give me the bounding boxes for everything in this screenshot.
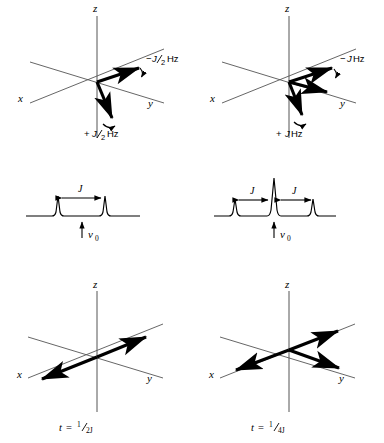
annotation-denominator-downfield: 2 (101, 133, 105, 142)
axis-label-x: x (17, 92, 23, 104)
caption-numerator: 1 (269, 420, 273, 429)
annotation-denominator-upfield: 2 (161, 58, 165, 67)
annotation-unit-upfield: Hz (167, 53, 179, 64)
annotation-j-upfield: J (346, 53, 352, 64)
axis-label-x: x (16, 368, 22, 380)
nmr-vector-figure: z x y − J 2 Hz + J 2 Hz z x y (0, 0, 384, 443)
caption-denominator: 2J (86, 426, 93, 435)
axis-label-y: y (339, 97, 345, 109)
caption-denominator: 4J (278, 426, 285, 435)
annotation-plus-sign: + (84, 128, 90, 139)
axis-label-z: z (92, 278, 98, 290)
annotation-unit-upfield: Hz (353, 53, 365, 64)
axis-label-z: z (284, 278, 290, 290)
axis-label-y: y (146, 372, 152, 384)
annotation-minus-j-hz: − J Hz (340, 53, 365, 64)
nu-subscript: 0 (287, 234, 291, 243)
caption-numerator: 1 (77, 420, 81, 429)
background (0, 0, 384, 443)
caption-equals: = (258, 422, 264, 433)
nu-subscript: 0 (95, 234, 99, 243)
axis-label-x: x (209, 92, 215, 104)
annotation-minus-sign: − (340, 53, 346, 64)
axis-label-y: y (147, 97, 153, 109)
coupling-label-j-left: J (250, 185, 255, 196)
axis-label-x: x (208, 368, 214, 380)
coupling-label-j-right: J (292, 185, 297, 196)
axis-label-z: z (284, 2, 290, 14)
coupling-label-j: J (78, 183, 83, 194)
annotation-j-downfield: J (91, 128, 97, 139)
nu-symbol: ν (280, 228, 285, 240)
annotation-unit-downfield: Hz (107, 128, 119, 139)
annotation-plus-sign: + (276, 128, 282, 139)
caption-equals: = (66, 422, 72, 433)
annotation-unit-downfield: Hz (291, 128, 303, 139)
annotation-j-downfield: J (284, 128, 290, 139)
annotation-j-upfield: J (151, 53, 157, 64)
axis-label-z: z (92, 2, 98, 14)
annotation-plus-j-hz: + J Hz (276, 128, 303, 139)
nu-symbol: ν (88, 228, 93, 240)
axis-label-y: y (338, 372, 344, 384)
figure-canvas: z x y − J 2 Hz + J 2 Hz z x y (0, 0, 384, 443)
